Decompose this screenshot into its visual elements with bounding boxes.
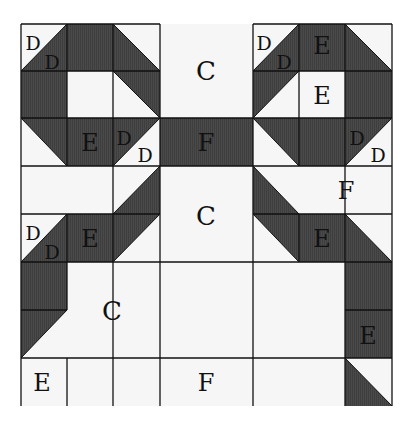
patch-label-e: E: [313, 82, 331, 110]
patch-label-d: D: [116, 127, 131, 149]
dark-square-patch: [299, 118, 345, 166]
patch-label-d: D: [25, 32, 40, 54]
patch-label-f: F: [338, 177, 355, 205]
patch-label-d: D: [137, 144, 152, 166]
patch-label-e: E: [313, 225, 331, 253]
patch-label-e: E: [313, 32, 331, 60]
patch-label-d: D: [349, 127, 364, 149]
patch-label-e: E: [359, 322, 377, 350]
patch-label-d: D: [276, 51, 291, 73]
patch-label-f: F: [198, 369, 215, 397]
patch-label-d: D: [256, 32, 271, 54]
patch-label-c: C: [196, 56, 216, 86]
patch-label-e: E: [81, 225, 99, 253]
patch-label-f: F: [198, 129, 215, 157]
dark-square-patch: [345, 71, 392, 118]
patch-label-c: C: [102, 296, 122, 326]
dark-square-patch: [21, 262, 67, 310]
patch-label-e: E: [81, 129, 99, 157]
patch-label-e: E: [33, 369, 51, 397]
patch-label-d: D: [25, 222, 40, 244]
patch-label-d: D: [44, 241, 59, 263]
patch-label-d: D: [44, 51, 59, 73]
dark-square-patch: [21, 71, 67, 118]
dark-square-patch: [67, 24, 113, 71]
quilt-diagram: DDCDDEEEDDFDDFCDDEECEEF: [0, 0, 415, 422]
patch-label-c: C: [196, 201, 216, 231]
dark-square-patch: [345, 262, 392, 310]
patch-label-d: D: [370, 144, 385, 166]
